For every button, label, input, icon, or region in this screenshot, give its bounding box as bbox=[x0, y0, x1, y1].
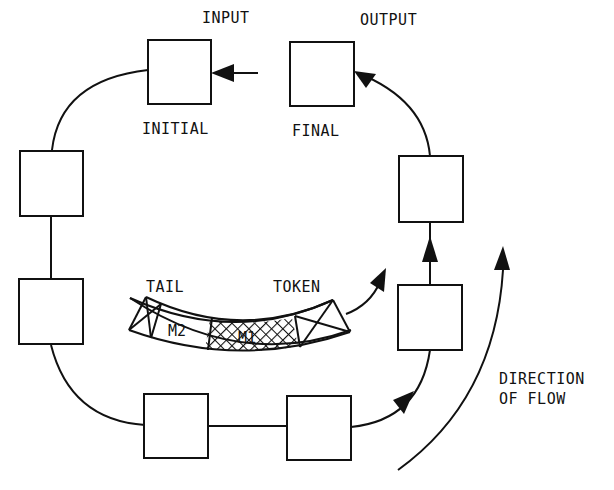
token-exit-line bbox=[346, 282, 380, 314]
node-right-upper bbox=[399, 156, 463, 222]
token-band: M2 M1 bbox=[129, 297, 351, 351]
direction-arrow-icon bbox=[494, 246, 510, 270]
link-right-upper-to-final bbox=[358, 73, 430, 156]
final-label: FINAL bbox=[292, 122, 340, 140]
output-label: OUTPUT bbox=[360, 11, 417, 29]
node-initial bbox=[148, 40, 211, 104]
node-bottom-right bbox=[287, 396, 351, 460]
input-arrow-icon bbox=[211, 64, 234, 82]
link-initial-to-left-upper bbox=[52, 70, 148, 150]
link-left-lower-to-bottom-left bbox=[51, 345, 145, 425]
link-bottom-right-to-right-lower bbox=[351, 350, 430, 427]
direction-label-line2: OF FLOW bbox=[499, 390, 566, 408]
token-exit-arrow-icon bbox=[370, 268, 386, 292]
node-right-lower bbox=[398, 285, 462, 350]
token-label: TOKEN bbox=[273, 278, 321, 296]
direction-label-line1: DIRECTION bbox=[499, 370, 585, 388]
input-label: INPUT bbox=[202, 9, 250, 27]
tail-x-1 bbox=[146, 297, 151, 338]
tail-label: TAIL bbox=[146, 278, 184, 296]
up-arrow-icon bbox=[422, 236, 438, 262]
segment-m2-label: M2 bbox=[168, 322, 186, 340]
segment-m1-label: M1 bbox=[238, 329, 256, 347]
initial-label: INITIAL bbox=[142, 120, 209, 138]
node-left-upper bbox=[20, 151, 83, 216]
token-ring-diagram: M2 M1 INPUT OUTPUT INITIAL FINAL TAIL TO… bbox=[0, 0, 614, 490]
node-bottom-left bbox=[144, 394, 208, 458]
node-left-lower bbox=[19, 279, 83, 344]
node-final bbox=[290, 42, 354, 106]
